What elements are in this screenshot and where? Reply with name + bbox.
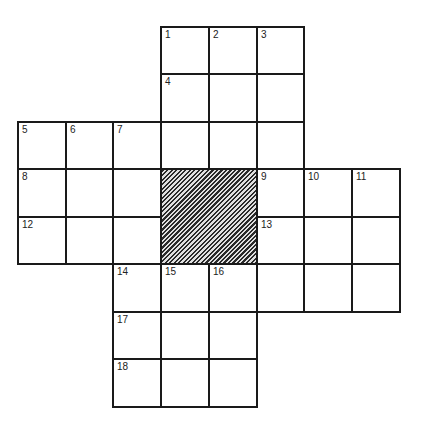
crossword-cell[interactable]: [303, 216, 353, 265]
clue-number: 16: [213, 266, 224, 277]
crossword-cell[interactable]: [160, 358, 210, 408]
clue-number: 5: [22, 124, 28, 135]
clue-number: 13: [261, 219, 272, 230]
crossword-cell[interactable]: 8: [17, 168, 67, 218]
clue-number: 15: [165, 266, 176, 277]
clue-number: 10: [308, 171, 319, 182]
clue-number: 8: [22, 171, 28, 182]
clue-number: 9: [261, 171, 267, 182]
clue-number: 7: [117, 124, 123, 135]
crossword-cell[interactable]: 7: [112, 121, 162, 170]
crossword-cell[interactable]: [351, 216, 401, 265]
clue-number: 14: [117, 266, 128, 277]
crossword-cell[interactable]: [208, 311, 258, 360]
crossword-cell[interactable]: 2: [208, 26, 258, 75]
crossword-cell[interactable]: 6: [65, 121, 114, 170]
crossword-cell[interactable]: 3: [256, 26, 305, 75]
crossword-cell[interactable]: 11: [351, 168, 401, 218]
crossword-cell[interactable]: [256, 263, 305, 313]
crossword-cell[interactable]: [208, 73, 258, 123]
crossword-cell[interactable]: 4: [160, 73, 210, 123]
crossword-cell[interactable]: [65, 168, 114, 218]
crossword-cell[interactable]: 18: [112, 358, 162, 408]
crossword-cell[interactable]: [256, 73, 305, 123]
crossword-cell[interactable]: [208, 358, 258, 408]
crossword-cell[interactable]: 16: [208, 263, 258, 313]
crossword-cell[interactable]: 12: [17, 216, 67, 265]
crossword-cell[interactable]: 1: [160, 26, 210, 75]
crossword-cell[interactable]: [65, 216, 114, 265]
clue-number: 2: [213, 29, 219, 40]
clue-number: 4: [165, 76, 171, 87]
clue-number: 18: [117, 361, 128, 372]
clue-number: 12: [22, 219, 33, 230]
clue-number: 3: [261, 29, 267, 40]
crossword-cell[interactable]: 9: [256, 168, 305, 218]
crossword-grid: 123456789101112131415161718: [0, 0, 427, 434]
crossword-cell[interactable]: 13: [256, 216, 305, 265]
crossword-cell[interactable]: [303, 263, 353, 313]
hatched-block: [160, 168, 258, 265]
crossword-cell[interactable]: [256, 121, 305, 170]
crossword-cell[interactable]: [160, 121, 210, 170]
clue-number: 1: [165, 29, 171, 40]
crossword-cell[interactable]: 10: [303, 168, 353, 218]
crossword-cell[interactable]: [208, 121, 258, 170]
crossword-cell[interactable]: 15: [160, 263, 210, 313]
crossword-cell[interactable]: 17: [112, 311, 162, 360]
clue-number: 11: [356, 171, 366, 182]
crossword-cell[interactable]: [351, 263, 401, 313]
clue-number: 17: [117, 314, 128, 325]
crossword-cell[interactable]: [112, 216, 162, 265]
crossword-cell[interactable]: 5: [17, 121, 67, 170]
crossword-cell[interactable]: [160, 311, 210, 360]
clue-number: 6: [70, 124, 76, 135]
crossword-cell[interactable]: 14: [112, 263, 162, 313]
crossword-cell[interactable]: [112, 168, 162, 218]
